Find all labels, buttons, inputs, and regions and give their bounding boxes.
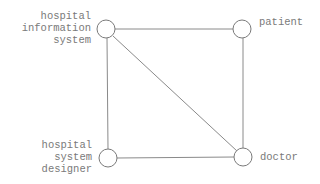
node-doctor-label: doctor (260, 151, 298, 163)
node-his-label: hospital information system (22, 10, 91, 46)
node-patient-label: patient (259, 16, 303, 28)
edge-hsd-doctor (117, 157, 234, 158)
node-doctor-circle[interactable] (234, 148, 252, 166)
edge-his-hsd (107, 38, 108, 149)
node-hsd-circle[interactable] (99, 149, 117, 167)
node-his-circle[interactable] (97, 20, 115, 38)
node-patient-circle[interactable] (233, 20, 251, 38)
edge-his-doctor (113, 36, 237, 151)
node-hsd-label: hospital system designer (42, 139, 92, 175)
